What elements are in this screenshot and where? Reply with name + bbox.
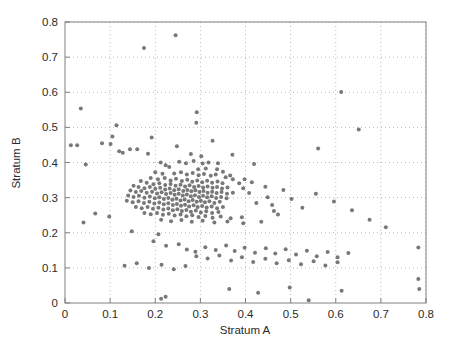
data-point bbox=[164, 163, 168, 167]
data-point bbox=[216, 210, 220, 214]
data-point bbox=[201, 162, 205, 166]
data-point bbox=[168, 186, 172, 190]
data-point bbox=[207, 199, 211, 203]
y-tick-label: 0.2 bbox=[42, 227, 58, 239]
x-tick-label: 0.7 bbox=[373, 308, 389, 320]
data-point bbox=[84, 163, 88, 167]
y-tick-label: 0.3 bbox=[42, 192, 58, 204]
data-point bbox=[69, 143, 73, 147]
data-point bbox=[195, 178, 199, 182]
data-point bbox=[205, 205, 209, 209]
data-point bbox=[209, 174, 213, 178]
data-point bbox=[155, 191, 159, 195]
data-point bbox=[184, 214, 188, 218]
data-point bbox=[199, 199, 203, 203]
data-point bbox=[357, 127, 361, 131]
data-point bbox=[175, 202, 179, 206]
data-point bbox=[153, 187, 157, 191]
data-point bbox=[315, 254, 319, 258]
data-point bbox=[172, 267, 176, 271]
data-point bbox=[179, 212, 183, 216]
data-point bbox=[153, 170, 157, 174]
data-point bbox=[189, 210, 193, 214]
data-point bbox=[384, 225, 388, 229]
data-point bbox=[205, 195, 209, 199]
data-point bbox=[142, 186, 146, 190]
data-point bbox=[170, 198, 174, 202]
data-point bbox=[191, 171, 195, 175]
data-point bbox=[191, 198, 195, 202]
x-tick-label: 0 bbox=[62, 308, 68, 320]
data-point bbox=[346, 251, 350, 255]
data-point bbox=[160, 263, 164, 267]
data-point bbox=[323, 263, 327, 267]
data-point bbox=[225, 185, 229, 189]
data-point bbox=[139, 179, 143, 183]
data-point bbox=[137, 185, 141, 189]
data-point bbox=[185, 188, 189, 192]
data-point bbox=[156, 177, 160, 181]
data-point bbox=[203, 214, 207, 218]
data-point bbox=[231, 191, 235, 195]
data-point bbox=[160, 172, 164, 176]
data-point bbox=[190, 180, 194, 184]
data-point bbox=[199, 210, 203, 214]
data-point bbox=[196, 205, 200, 209]
data-point bbox=[179, 170, 183, 174]
data-point bbox=[202, 189, 206, 193]
data-point bbox=[193, 250, 197, 254]
x-tick-label: 0.2 bbox=[147, 308, 163, 320]
data-point bbox=[294, 253, 298, 257]
y-tick-label: 0.8 bbox=[42, 16, 58, 28]
data-point bbox=[93, 211, 97, 215]
data-point bbox=[167, 212, 171, 216]
data-point bbox=[183, 197, 187, 201]
data-point bbox=[185, 192, 189, 196]
data-point bbox=[206, 184, 210, 188]
data-point bbox=[220, 190, 224, 194]
data-point bbox=[180, 179, 184, 183]
data-point bbox=[194, 209, 198, 213]
data-point bbox=[142, 211, 146, 215]
data-point bbox=[148, 195, 152, 199]
data-point bbox=[416, 246, 420, 250]
data-point bbox=[214, 172, 218, 176]
data-point bbox=[185, 172, 189, 176]
data-point bbox=[157, 181, 161, 185]
data-point bbox=[254, 201, 258, 205]
data-point bbox=[326, 250, 330, 254]
x-tick-labels: 00.10.20.30.40.50.60.70.8 bbox=[62, 308, 434, 320]
data-point bbox=[190, 220, 194, 224]
data-point bbox=[100, 141, 104, 145]
x-tick-label: 0.8 bbox=[418, 308, 434, 320]
data-point bbox=[259, 220, 263, 224]
x-tick-label: 0.4 bbox=[238, 308, 255, 320]
data-point bbox=[151, 182, 155, 186]
data-point bbox=[174, 184, 178, 188]
data-point bbox=[219, 195, 223, 199]
data-point bbox=[336, 255, 340, 259]
data-point bbox=[214, 196, 218, 200]
data-point bbox=[202, 172, 206, 176]
data-point bbox=[200, 180, 204, 184]
data-point bbox=[312, 259, 316, 263]
data-point bbox=[146, 152, 150, 156]
data-point bbox=[192, 203, 196, 207]
data-point bbox=[166, 201, 170, 205]
data-point bbox=[229, 259, 233, 263]
data-point bbox=[169, 191, 173, 195]
data-point bbox=[164, 244, 168, 248]
data-point bbox=[224, 175, 228, 179]
data-point bbox=[169, 182, 173, 186]
data-point bbox=[188, 183, 192, 187]
x-tick-label: 0.1 bbox=[102, 308, 118, 320]
data-point bbox=[217, 254, 221, 258]
data-point bbox=[196, 167, 200, 171]
data-point bbox=[139, 189, 143, 193]
data-point bbox=[147, 266, 151, 270]
x-tick-label: 0.3 bbox=[192, 308, 208, 320]
data-point bbox=[184, 161, 188, 165]
data-point bbox=[114, 123, 118, 127]
data-point bbox=[171, 208, 175, 212]
data-point bbox=[227, 287, 231, 291]
